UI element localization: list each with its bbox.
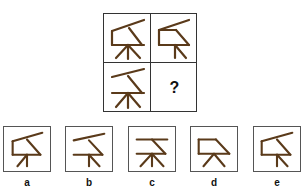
grid-cell-r2c2: ? [151, 63, 198, 112]
option-d-label: d [190, 177, 238, 188]
grid-cell-r1c2 [151, 14, 198, 63]
option-d[interactable] [190, 126, 238, 172]
option-c[interactable] [128, 126, 176, 172]
option-a-label: a [3, 177, 51, 188]
grid-cell-r1c1 [104, 14, 151, 63]
option-b-figure-icon [66, 127, 112, 171]
option-c-label: c [128, 177, 176, 188]
figure-box-icon [151, 14, 198, 63]
option-b-label: b [65, 177, 113, 188]
option-e-figure-icon [254, 127, 300, 171]
option-e-label: e [253, 177, 301, 188]
puzzle-grid: ? [103, 13, 197, 112]
figure-lines-icon [104, 63, 151, 112]
option-c-figure-icon [129, 127, 175, 171]
option-a-figure-icon [4, 127, 50, 171]
option-e[interactable] [253, 126, 301, 172]
grid-cell-r2c1 [104, 63, 151, 112]
question-mark: ? [151, 63, 198, 112]
option-b[interactable] [65, 126, 113, 172]
option-d-figure-icon [191, 127, 237, 171]
figure-full-icon [104, 14, 151, 63]
option-a[interactable] [3, 126, 51, 172]
